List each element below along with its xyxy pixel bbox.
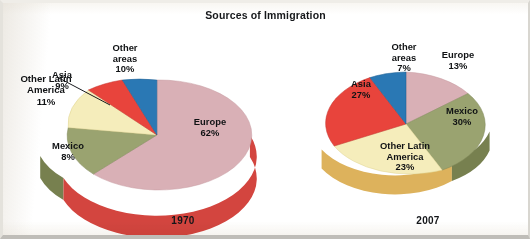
label-europe-1970: Europe 62% (173, 117, 247, 138)
figure-panel: Sources of Immigration (0, 0, 530, 239)
label-mexico-2007-value: 30% (433, 117, 491, 128)
year-label-1970: 1970 (153, 215, 213, 226)
label-ola-2007-line1: Other Latin (365, 141, 445, 152)
callout-other-latin-america-1970: Other Latin America 11% (9, 73, 83, 107)
label-mexico-1970-value: 8% (35, 152, 101, 163)
callout-ola-1970-value: 11% (9, 96, 83, 107)
label-asia-2007-value: 27% (337, 90, 385, 101)
pie-1970-svg (15, 17, 305, 239)
label-europe-2007-name: Europe (429, 50, 487, 61)
label-other-areas-1970-line1: Other (99, 43, 151, 54)
label-other-areas-2007: Other areas 7% (381, 42, 427, 74)
label-mexico-2007-name: Mexico (433, 106, 491, 117)
callout-ola-1970-line1: Other Latin (9, 73, 83, 84)
label-asia-2007: Asia 27% (337, 79, 385, 100)
pie-chart-1970: Europe 62% Mexico 8% Asia 9% Other areas… (15, 17, 305, 239)
label-other-latin-america-2007: Other Latin America 23% (365, 141, 445, 173)
label-asia-2007-name: Asia (337, 79, 385, 90)
label-other-areas-1970-value: 10% (99, 64, 151, 75)
label-other-areas-2007-line1: Other (381, 42, 427, 53)
label-europe-2007-value: 13% (429, 61, 487, 72)
label-ola-2007-value: 23% (365, 162, 445, 173)
label-other-areas-2007-value: 7% (381, 63, 427, 74)
callout-ola-1970-line2: America (9, 84, 83, 95)
year-label-2007: 2007 (398, 215, 458, 226)
label-europe-2007: Europe 13% (429, 50, 487, 71)
slice-side-mexico-1970 (40, 156, 63, 200)
label-mexico-1970: Mexico 8% (35, 141, 101, 162)
label-europe-1970-value: 62% (173, 128, 247, 139)
label-other-areas-1970: Other areas 10% (99, 43, 151, 75)
label-europe-1970-name: Europe (173, 117, 247, 128)
label-mexico-2007: Mexico 30% (433, 106, 491, 127)
label-mexico-1970-name: Mexico (35, 141, 101, 152)
pie-chart-2007: Other areas 7% Europe 13% Mexico 30% Asi… (303, 21, 529, 236)
